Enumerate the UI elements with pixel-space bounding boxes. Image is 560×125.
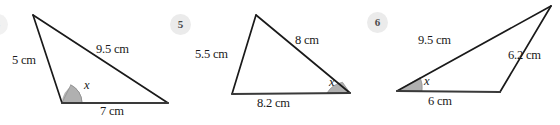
side-label-9-5cm-b: 9.5 cm [418,33,451,48]
triangle-figure-6: 9.5 cm 6.2 cm 6 cm x [360,0,560,125]
triangle-side-base-6 [397,91,500,92]
triangle-side-left-5 [232,15,256,94]
triangle-figure-4: 5 cm 9.5 cm 7 cm x [0,0,190,125]
triangle-side-hyp-4 [33,15,168,103]
side-label-8-2cm: 8.2 cm [257,96,290,111]
side-label-9-5cm: 9.5 cm [96,42,129,57]
triangle-side-left-4 [33,15,62,103]
side-label-5cm: 5 cm [12,53,36,68]
side-label-6-2cm: 6.2 cm [508,48,541,63]
triangle-figure-5: 5.5 cm 8 cm 8.2 cm x [190,0,360,125]
angle-label-x-4: x [84,78,90,93]
side-label-8cm: 8 cm [295,33,319,48]
angle-label-x-6: x [424,74,430,89]
angle-label-x-5: x [329,75,335,90]
side-label-6cm: 6 cm [428,94,452,109]
worksheet-figures-row: 4 5 cm 9.5 cm 7 cm x 5 5.5 cm 8 cm 8.2 c… [0,0,560,125]
question-badge-5: 5 [170,14,191,35]
side-label-7cm: 7 cm [100,104,124,119]
side-label-5-5cm: 5.5 cm [195,47,228,62]
triangle-side-base-5 [232,93,350,94]
triangle-side-upper-right-5 [256,15,350,93]
